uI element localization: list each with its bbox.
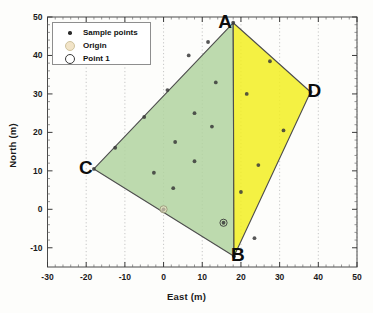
sample-point-marker — [166, 88, 170, 92]
sample-point-marker — [210, 125, 214, 129]
sample-point-marker — [214, 80, 218, 84]
y-tick-label-0: 0 — [17, 204, 43, 214]
x-tick-label-50: 50 — [342, 272, 372, 282]
legend-label: Sample points — [83, 26, 138, 39]
origin-marker — [160, 206, 167, 213]
y-tick-label-50: 50 — [17, 12, 43, 22]
x-tick-label--10: -10 — [110, 272, 140, 282]
sample-point-marker — [206, 40, 210, 44]
circle-glyph — [65, 54, 75, 64]
sample-point-marker — [173, 140, 177, 144]
legend-label: Origin — [83, 39, 107, 52]
sample-point-marker — [142, 115, 146, 119]
circle-glyph — [65, 41, 75, 51]
sample-point-marker — [152, 171, 156, 175]
sample-point-marker — [239, 190, 243, 194]
y-tick-label-30: 30 — [17, 89, 43, 99]
sample-point-marker — [268, 59, 272, 63]
x-tick-label-40: 40 — [303, 272, 333, 282]
x-tick-label-10: 10 — [187, 272, 217, 282]
sample-point-marker — [113, 146, 117, 150]
scatter-plot-figure: East (m) North (m) -30-20-1001020304050 … — [0, 0, 373, 313]
vertex-label-B: B — [231, 245, 245, 264]
origin-icon — [63, 39, 79, 52]
sample-point-icon — [63, 26, 79, 39]
y-tick-label-20: 20 — [17, 127, 43, 137]
y-tick-label--10: -10 — [17, 243, 43, 253]
sample-point-marker — [193, 111, 197, 115]
point-1-icon — [63, 52, 79, 65]
legend-item-3[interactable]: Point 1 — [53, 52, 152, 65]
vertex-label-C: C — [79, 158, 93, 177]
x-tick-label-30: 30 — [265, 272, 295, 282]
vertex-label-D: D — [308, 81, 322, 100]
legend-label: Point 1 — [83, 52, 110, 65]
legend-item-2[interactable]: Origin — [53, 39, 152, 52]
x-tick-label--30: -30 — [33, 272, 63, 282]
y-tick-label-40: 40 — [17, 50, 43, 60]
sample-point-marker — [193, 159, 197, 163]
legend[interactable]: Sample pointsOriginPoint 1 — [52, 22, 151, 65]
sample-point-marker — [171, 186, 175, 190]
x-tick-label--20: -20 — [71, 272, 101, 282]
vertex-label-A: A — [218, 12, 232, 31]
sample-point-marker — [256, 163, 260, 167]
sample-point-marker — [282, 129, 286, 133]
yellow-region-ABD — [233, 23, 310, 256]
x-tick-label-20: 20 — [226, 272, 256, 282]
sample-point-marker — [245, 92, 249, 96]
sample-point-marker — [222, 221, 226, 225]
sample-point-marker — [253, 236, 257, 240]
sample-point-marker — [187, 54, 191, 58]
dot-glyph — [68, 31, 72, 35]
x-axis-label: East (m) — [0, 291, 373, 302]
x-tick-label-0: 0 — [149, 272, 179, 282]
legend-item-1[interactable]: Sample points — [53, 26, 152, 39]
y-tick-label-10: 10 — [17, 166, 43, 176]
